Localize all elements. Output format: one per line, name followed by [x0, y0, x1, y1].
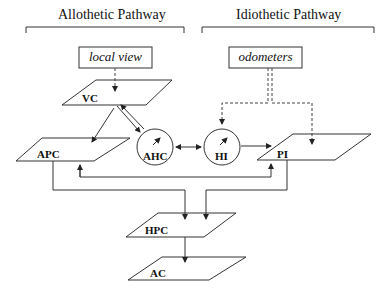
allothetic-bracket: [26, 27, 184, 33]
ac-label: AC: [150, 267, 166, 279]
allothetic-pathway-title: Allothetic Pathway: [58, 7, 166, 23]
hpc-layer: [126, 213, 236, 237]
hi-label: HI: [215, 150, 228, 162]
vc-layer: [62, 80, 172, 105]
ac-layer: [128, 257, 246, 280]
pi-layer: [257, 134, 371, 160]
navigation-model-diagram: Allothetic Pathway Idiothetic Pathway lo…: [0, 0, 386, 298]
apc-layer: [16, 138, 130, 161]
hpc-label: HPC: [145, 224, 168, 236]
odometers-label: odometers: [229, 49, 302, 65]
apc-label: APC: [37, 148, 60, 160]
vc-label: VC: [82, 92, 98, 104]
local-view-label: local view: [79, 49, 152, 65]
idiothetic-bracket: [202, 27, 374, 33]
pi-label: PI: [277, 148, 288, 160]
idiothetic-pathway-title: Idiothetic Pathway: [236, 7, 341, 23]
ahc-label: AHC: [143, 150, 167, 162]
